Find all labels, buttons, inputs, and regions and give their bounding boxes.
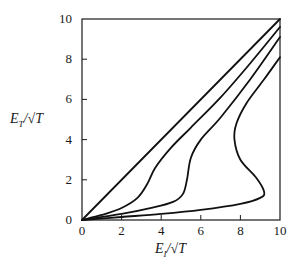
x-axis-title: EI/√T <box>155 241 186 259</box>
x-tick-label: 2 <box>112 224 132 237</box>
y-axis-title: ET/√T <box>10 111 43 129</box>
curve-1 <box>82 19 280 220</box>
y-tick-label: 6 <box>52 92 72 105</box>
y-tick-label: 8 <box>52 52 72 65</box>
y-title-tail: /√T <box>24 111 43 126</box>
y-title-main: E <box>10 111 19 126</box>
x-tick-label: 6 <box>191 224 211 237</box>
y-tick-label: 10 <box>52 12 72 25</box>
y-tick-label: 2 <box>52 173 72 186</box>
plot-area <box>0 0 295 264</box>
y-tick-label: 4 <box>52 133 72 146</box>
y-tick-label: 0 <box>52 213 72 226</box>
x-title-tail: /√T <box>167 241 186 256</box>
x-tick-label: 10 <box>270 224 290 237</box>
curves <box>82 19 280 220</box>
x-tick-label: 8 <box>230 224 250 237</box>
x-tick-label: 4 <box>151 224 171 237</box>
x-tick-label: 0 <box>72 224 92 237</box>
x-title-main: E <box>155 241 164 256</box>
